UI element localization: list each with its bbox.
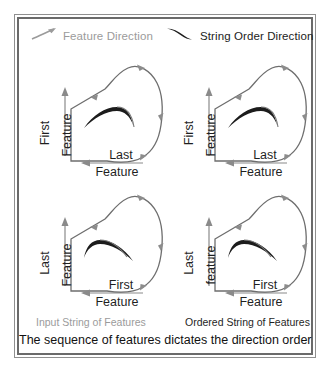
panel-bottom-right: Last feature First Feature [171,179,317,315]
figure-inner-frame: Feature Direction String Order Direction [17,17,313,355]
vertical-axis-secondary-label: Feature [60,243,74,286]
legend-feature-direction-label: Feature Direction [63,30,153,42]
panel-top-left: First Feature Last Feature [27,51,173,179]
vertical-axis-primary-label: First [182,120,196,145]
vertical-axis-primary-label: Last [182,251,196,275]
horizontal-axis-secondary-label: Feature [239,295,282,309]
horizontal-axis-secondary-label: Feature [95,295,138,309]
vertical-axis-primary-label: Last [38,251,52,275]
horizontal-axis-primary-label: First [253,278,278,292]
legend-feature-direction: Feature Direction [31,27,153,45]
caption-input-string: Input String of Features [36,316,146,328]
horizontal-axis-secondary-label: Feature [95,165,138,179]
string-order-arrow [228,240,277,261]
legend-string-order-direction-label: String Order Direction [200,30,313,42]
caption-summary: The sequence of features dictates the di… [19,333,311,347]
horizontal-axis-secondary-label: Feature [239,165,282,179]
horizontal-axis-primary-label: First [109,278,134,292]
vertical-axis-secondary-label: Feature [204,113,218,156]
dark-tapered-curved-arrow-icon [166,27,194,45]
caption-ordered-string: Ordered String of Features [185,316,310,328]
horizontal-axis-primary-label: Last [253,148,277,162]
string-order-arrow [84,240,133,261]
vertical-axis-secondary-label: feature [204,245,218,284]
straight-gray-arrow-icon [31,27,57,45]
legend-string-order-direction: String Order Direction [166,27,313,45]
vertical-axis-primary-label: First [38,120,52,145]
panel-bottom-left: Last Feature First Feature [27,179,173,315]
figure-frame: Feature Direction String Order Direction [14,14,316,358]
panel-top-right: First Feature Last Feature [171,51,317,179]
vertical-axis-secondary-label: Feature [60,113,74,156]
horizontal-axis-primary-label: Last [109,148,133,162]
